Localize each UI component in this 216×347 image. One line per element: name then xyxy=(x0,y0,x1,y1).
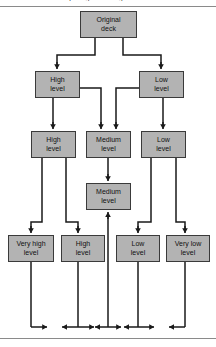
node-tier3-low-level[interactable]: Low level xyxy=(141,131,186,158)
connector-layer xyxy=(0,0,216,347)
node-label: Very high level xyxy=(16,240,45,256)
edge-t2high-to-medium xyxy=(80,88,101,125)
node-very-low-level[interactable]: Very low level xyxy=(166,235,210,262)
node-label: Original deck xyxy=(96,16,120,32)
edge-t3low-to-verylow xyxy=(176,158,185,229)
node-label: Low level xyxy=(156,136,170,152)
edge-t3low-to-low xyxy=(138,158,151,229)
node-label: Low level xyxy=(131,240,145,256)
figure-root: splitting of the original deck xyxy=(0,0,216,347)
node-label: High level xyxy=(46,136,60,152)
node-label: Medium level xyxy=(96,188,121,204)
node-label: High level xyxy=(76,240,90,256)
node-label: Medium level xyxy=(96,136,121,152)
node-tier2-high-level[interactable]: High level xyxy=(35,71,80,98)
node-label: Very low level xyxy=(175,240,201,256)
edge-t3high-to-veryhigh xyxy=(31,158,42,229)
node-original-deck[interactable]: Original deck xyxy=(80,11,137,38)
node-tier3-high-level[interactable]: High level xyxy=(31,131,76,158)
node-tier5-high-level[interactable]: High level xyxy=(61,235,105,262)
edge-t3high-to-high xyxy=(66,158,78,229)
node-label: Low level xyxy=(154,76,168,92)
edge-t2low-to-medium xyxy=(116,88,139,125)
node-tier4-medium-level[interactable]: Medium level xyxy=(86,183,131,210)
node-tier3-medium-level[interactable]: Medium level xyxy=(86,131,131,158)
edge-original-to-low xyxy=(123,38,161,65)
node-tier2-low-level[interactable]: Low level xyxy=(139,71,184,98)
edge-original-to-high xyxy=(57,38,95,65)
node-label: High level xyxy=(50,76,64,92)
node-tier5-low-level[interactable]: Low level xyxy=(116,235,160,262)
node-very-high-level[interactable]: Very high level xyxy=(8,235,54,262)
